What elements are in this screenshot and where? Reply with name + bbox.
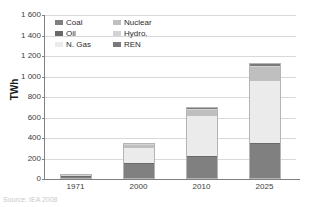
- x-tick-label: 1971: [44, 182, 107, 191]
- legend-swatch-icon: [55, 20, 63, 25]
- y-tick-label: 600: [1, 114, 41, 122]
- bar-slot: [233, 15, 296, 179]
- bar-segment-n-gas[interactable]: [187, 116, 217, 156]
- legend-swatch-icon: [55, 42, 63, 47]
- y-tick-label: 1 200: [1, 52, 41, 60]
- legend-label: Hydro.: [124, 28, 148, 39]
- y-axis-tick-labels: 02004006008001 0001 2001 4001 600: [0, 15, 41, 179]
- legend-label: Coal: [66, 17, 82, 28]
- legend-item-coal[interactable]: Coal: [55, 17, 111, 28]
- y-tick-label: 1 600: [1, 11, 41, 19]
- legend-item-nuclear[interactable]: Nuclear: [113, 17, 173, 28]
- y-tick-label: 1 000: [1, 73, 41, 81]
- legend-swatch-icon: [113, 31, 121, 36]
- bar-slot: [170, 15, 233, 179]
- y-tick-label: 800: [1, 93, 41, 101]
- bar-segment-coal[interactable]: [124, 164, 154, 178]
- x-tick-label: 2025: [233, 182, 296, 191]
- y-tick-label: 1 400: [1, 32, 41, 40]
- bar-segment-n-gas[interactable]: [124, 148, 154, 162]
- bar-segment-coal[interactable]: [61, 177, 91, 178]
- x-axis-line: [44, 179, 300, 180]
- legend-label: N. Gas: [66, 39, 91, 50]
- stacked-bar[interactable]: [60, 174, 92, 179]
- bar-segment-nuclear[interactable]: [250, 67, 280, 80]
- stacked-bar[interactable]: [123, 143, 155, 179]
- source-caption: Source: IEA 2008: [3, 196, 143, 206]
- y-tick-label: 0: [1, 175, 41, 183]
- chart-legend: CoalNuclearOilHydro.N. GasREN: [55, 17, 175, 50]
- y-tick-label: 200: [1, 155, 41, 163]
- legend-item-oil[interactable]: Oil: [55, 28, 111, 39]
- chart-figure: TWh 02004006008001 0001 2001 4001 600 19…: [0, 0, 313, 207]
- bar-segment-n-gas[interactable]: [250, 81, 280, 144]
- legend-swatch-icon: [55, 31, 63, 36]
- bar-segment-coal[interactable]: [250, 144, 280, 178]
- bar-segment-coal[interactable]: [187, 157, 217, 178]
- legend-label: Nuclear: [124, 17, 152, 28]
- legend-swatch-icon: [113, 42, 121, 47]
- stacked-bar[interactable]: [186, 107, 218, 179]
- y-tick-label: 400: [1, 134, 41, 142]
- legend-item-hydro[interactable]: Hydro.: [113, 28, 173, 39]
- x-tick-label: 2010: [170, 182, 233, 191]
- x-axis-tick-labels: 1971200020102025: [44, 182, 296, 196]
- legend-swatch-icon: [113, 20, 121, 25]
- legend-item-ren[interactable]: REN: [113, 39, 173, 50]
- legend-item-n-gas[interactable]: N. Gas: [55, 39, 111, 50]
- stacked-bar[interactable]: [249, 63, 281, 179]
- x-tick-label: 2000: [107, 182, 170, 191]
- legend-label: Oil: [66, 28, 76, 39]
- legend-label: REN: [124, 39, 141, 50]
